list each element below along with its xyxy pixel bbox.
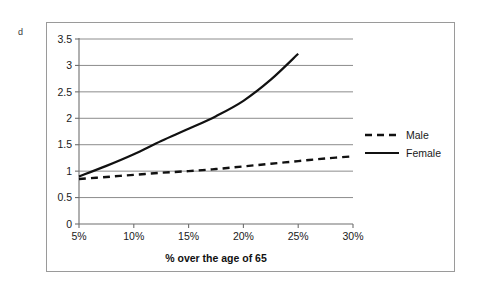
line-chart: 00.511.522.533.5 5%10%15%20%25%30% % ove… (47, 23, 454, 271)
y-tick-label: 0.5 (57, 191, 72, 203)
x-tick-label: 15% (178, 230, 199, 242)
y-tick-label: 3 (66, 59, 72, 71)
y-tick-label: 2.5 (57, 86, 72, 98)
gridlines (79, 39, 353, 198)
x-tick-label: 10% (123, 230, 144, 242)
chart-frame: 00.511.522.533.5 5%10%15%20%25%30% % ove… (46, 22, 455, 272)
y-tick-label: 1.5 (57, 138, 72, 150)
x-tick-label: 30% (342, 230, 363, 242)
y-tick-marks (75, 39, 79, 224)
y-tick-label: 0 (66, 218, 72, 230)
series-lines (79, 54, 353, 179)
x-tick-marks (79, 224, 353, 228)
chart-legend: MaleFemale (365, 129, 441, 159)
x-tick-label: 20% (233, 230, 254, 242)
figure-panel: d 00.511.522.533.5 5%10%15%20%25%30% % o… (0, 0, 478, 291)
legend-label-male: Male (406, 129, 429, 141)
x-tick-labels: 5%10%15%20%25%30% (71, 230, 363, 242)
y-tick-label: 2 (66, 112, 72, 124)
y-tick-label: 3.5 (57, 33, 72, 45)
y-tick-labels: 00.511.522.533.5 (57, 33, 72, 230)
x-axis-title-label: % over the age of 65 (165, 252, 267, 264)
legend-label-female: Female (406, 147, 441, 159)
x-tick-label: 5% (71, 230, 86, 242)
x-tick-label: 25% (288, 230, 309, 242)
panel-letter: d (18, 28, 23, 37)
y-tick-label: 1 (66, 165, 72, 177)
series-line-female (79, 54, 298, 177)
x-axis-title: % over the age of 65 (165, 252, 267, 264)
